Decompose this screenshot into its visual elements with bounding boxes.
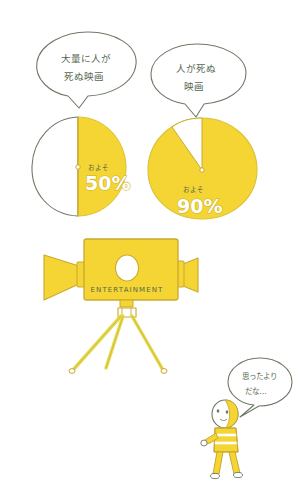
speech-bubble-left: 大量に人が 死ぬ映画 (37, 32, 136, 108)
bubble-left-line2: 死ぬ映画 (64, 71, 104, 82)
pie-left-value-label: 50% (85, 172, 130, 194)
camera-left-horn (44, 255, 79, 300)
movie-camera: ENTERTAINMENT (44, 239, 198, 373)
pie-chart-right: およそ 90% (148, 118, 257, 219)
speech-bubble-character: 思ったより だな… (228, 358, 292, 417)
character-hand (201, 440, 207, 446)
character-eye-left (217, 409, 220, 413)
pie-left-approx-label: およそ (88, 164, 109, 172)
tripod-foot-right (161, 369, 167, 374)
tripod-leg-right-outline (132, 316, 163, 370)
pie-right-approx-label: およそ (183, 186, 204, 194)
character-foot-left (211, 473, 220, 478)
bubble-right-line2: 映画 (184, 81, 204, 92)
pie-right-value-label: 90% (177, 195, 222, 217)
character-eye-right (226, 410, 229, 414)
camera-lens-opening (116, 255, 139, 281)
character-figure (201, 400, 243, 479)
bubble-character-line1: 思ったより (242, 372, 277, 381)
pie-right-center-dot (200, 168, 204, 172)
illustration-canvas: 大量に人が 死ぬ映画 人が死ぬ 映画 およそ 50% およそ 90% (0, 0, 305, 488)
character-leg-left (213, 452, 223, 474)
character-leg-right (229, 452, 240, 474)
character-torso (214, 428, 238, 452)
character-foot-right (234, 472, 243, 477)
speech-bubble-left-shape (37, 32, 136, 108)
pie-left-center-dot (76, 165, 80, 169)
pie-left-slice-white (32, 117, 78, 216)
camera-body-label: ENTERTAINMENT (91, 286, 164, 294)
camera-mount-neck (120, 300, 133, 307)
bubble-character-line2: だな… (245, 387, 267, 396)
bubble-right-line1: 人が死ぬ (176, 63, 216, 74)
pie-chart-left: およそ 50% (32, 117, 131, 216)
bubble-left-line1: 大量に人が (61, 53, 111, 64)
camera-lens-cone (183, 258, 198, 292)
tripod-foot-left (69, 369, 75, 374)
speech-bubble-right: 人が死ぬ 映画 (151, 44, 246, 117)
